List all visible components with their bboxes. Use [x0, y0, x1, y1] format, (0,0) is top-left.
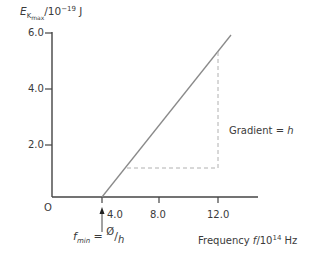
origin-label: O [44, 203, 52, 213]
y-axis-symbol: E [20, 5, 27, 17]
y-tick-label-4: 4.0 [28, 84, 44, 94]
y-axis-exp: −19 [61, 5, 76, 13]
y-axis-unit-post: J [76, 5, 82, 17]
gradient-symbol: h [287, 125, 293, 136]
fmin-denominator: h [118, 234, 124, 245]
fmin-arrow-head [100, 207, 105, 214]
fmin-numerator: Ø [106, 226, 114, 237]
x-axis-title: Frequency f/1014 Hz [198, 236, 297, 246]
y-tick-label-2: 2.0 [28, 140, 44, 150]
fmin-annotation: fmin = Ø/h [73, 231, 124, 242]
x-tick-label-12: 12.0 [207, 210, 229, 220]
gradient-text: Gradient = [229, 125, 287, 136]
fmin-sub: min [77, 237, 90, 245]
x-axis-unit-pre: /10 [256, 235, 272, 246]
x-tick-label-4: 4.0 [107, 210, 123, 220]
data-line [102, 35, 231, 197]
y-axis-subsub: max [31, 14, 44, 21]
fmin-eq: = [90, 230, 106, 243]
x-tick-label-8: 8.0 [150, 210, 166, 220]
y-axis-title: EKmax/10−19 J [20, 6, 82, 18]
y-tick-label-6: 6.0 [28, 28, 44, 38]
x-axis-pre: Frequency [198, 235, 253, 246]
x-axis-unit-post: Hz [281, 235, 297, 246]
y-axis-unit-pre: /10 [44, 5, 61, 17]
gradient-annotation: Gradient = h [229, 126, 294, 136]
